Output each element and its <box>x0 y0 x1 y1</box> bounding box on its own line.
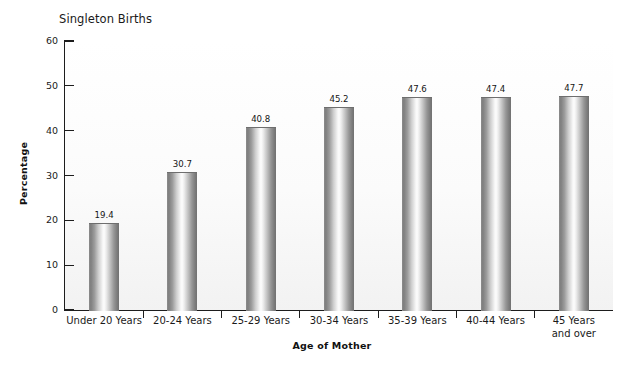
y-tick-mark <box>65 265 74 266</box>
y-tick-label: 60 <box>32 35 58 46</box>
y-tick-mark <box>65 40 74 41</box>
y-tick-label: 50 <box>32 80 58 91</box>
bar-value-label: 47.6 <box>395 84 439 94</box>
y-tick-mark <box>65 220 74 221</box>
chart-title: Singleton Births <box>59 12 152 26</box>
bar <box>89 223 119 311</box>
y-tick-label: 0 <box>32 304 58 315</box>
y-tick-label: 10 <box>32 259 58 270</box>
bar-value-label: 30.7 <box>160 159 204 169</box>
x-category-label: 25-29 Years <box>216 315 306 328</box>
x-category-label: Under 20 Years <box>59 315 149 328</box>
bar <box>246 127 276 311</box>
bar-value-label: 45.2 <box>317 94 361 104</box>
bar-value-label: 47.4 <box>474 84 518 94</box>
y-tick-label: 30 <box>32 170 58 181</box>
y-tick-mark <box>65 85 74 86</box>
bar-value-label: 40.8 <box>239 114 283 124</box>
bar-value-label: 47.7 <box>552 83 596 93</box>
x-category-label: 20-24 Years <box>137 315 227 328</box>
y-axis-label: Percentage <box>18 134 29 214</box>
bar <box>324 107 354 311</box>
bar-value-label: 19.4 <box>82 210 126 220</box>
chart-figure: Singleton Births Percentage 010203040506… <box>0 0 627 367</box>
bar <box>481 97 511 311</box>
x-category-label: 35-39 Years <box>372 315 462 328</box>
bar <box>167 172 197 311</box>
bar <box>559 96 589 311</box>
y-tick-mark <box>65 130 74 131</box>
x-category-label: 40-44 Years <box>451 315 541 328</box>
y-tick-mark <box>65 175 74 176</box>
x-category-label: 30-34 Years <box>294 315 384 328</box>
x-category-label: 45 Years and over <box>529 315 619 340</box>
y-tick-label: 40 <box>32 125 58 136</box>
x-axis-label: Age of Mother <box>242 340 422 351</box>
y-tick-mark <box>65 309 74 310</box>
y-tick-label: 20 <box>32 214 58 225</box>
bar <box>402 97 432 311</box>
